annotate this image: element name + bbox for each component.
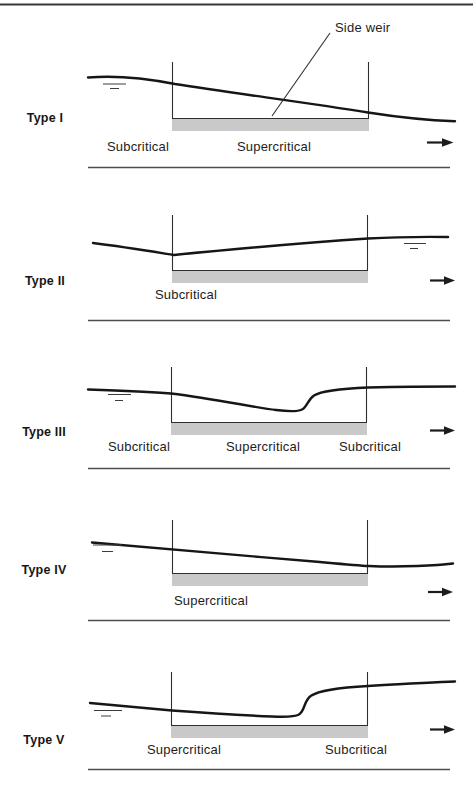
type-label-3: Type III bbox=[22, 426, 66, 439]
side-weir-annotation: Side weir bbox=[335, 21, 390, 34]
regime-label-supercritical: Supercritical bbox=[174, 594, 248, 607]
regime-label-supercritical: Supercritical bbox=[147, 743, 221, 756]
type-label-2: Type II bbox=[25, 275, 65, 288]
regime-label-subcritical: Subcritical bbox=[339, 440, 401, 453]
weir-crest-fill bbox=[171, 423, 367, 435]
type-label-1: Type I bbox=[27, 112, 63, 125]
water-level-marker bbox=[103, 84, 126, 89]
regime-label-subcritical: Subcritical bbox=[325, 743, 387, 756]
water-level-marker bbox=[93, 545, 122, 552]
water-surface-profile bbox=[90, 682, 455, 717]
weir-crest-fill bbox=[171, 726, 368, 738]
regime-label-supercritical: Supercritical bbox=[226, 440, 300, 453]
diagram-canvas bbox=[0, 0, 473, 792]
panel-type-4 bbox=[92, 520, 453, 596]
type-label-5: Type V bbox=[23, 734, 64, 747]
flow-direction-arrow bbox=[427, 138, 454, 147]
figure-side-weir-flow-types: Side weir Type I Subcritical Supercritic… bbox=[0, 0, 473, 792]
weir-crest-fill bbox=[172, 574, 368, 586]
water-level-marker bbox=[108, 395, 131, 401]
flow-direction-arrow bbox=[428, 588, 453, 597]
flow-direction-arrow bbox=[430, 276, 455, 285]
water-level-marker bbox=[94, 711, 122, 717]
regime-label-supercritical: Supercritical bbox=[237, 139, 311, 152]
flow-direction-arrow bbox=[430, 725, 455, 734]
water-surface-profile bbox=[92, 543, 453, 567]
flow-direction-arrow bbox=[430, 426, 455, 435]
weir-crest-fill bbox=[172, 271, 368, 283]
panel-type-3 bbox=[88, 367, 455, 435]
water-surface-profile bbox=[88, 77, 455, 121]
regime-label-subcritical: Subcritical bbox=[108, 440, 170, 453]
panel-type-1 bbox=[88, 33, 455, 147]
type-label-4: Type IV bbox=[22, 564, 67, 577]
water-surface-profile bbox=[93, 237, 448, 255]
panel-type-2 bbox=[93, 215, 455, 285]
regime-label-subcritical: Subcritical bbox=[155, 288, 217, 301]
panel-type-5 bbox=[90, 672, 455, 738]
water-surface-profile bbox=[88, 387, 455, 412]
water-level-marker bbox=[404, 244, 426, 249]
weir-crest-fill bbox=[172, 119, 369, 131]
regime-label-subcritical: Subcritical bbox=[107, 139, 169, 152]
